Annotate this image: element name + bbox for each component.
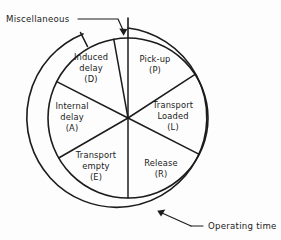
operating-time-leader-line [162,213,191,226]
pie-chart-svg: Miscellaneous Operating time Pick-up (P)… [0,0,281,240]
sector-label-internal-delay: Internal delay (A) [55,101,88,133]
sector-label-pick-up-line2: (P) [149,65,161,75]
operating-time-label: Operating time [208,221,277,231]
sector-label-internal-delay-line1: Internal [55,101,88,111]
sector-label-pick-up-line1: Pick-up [139,54,170,64]
miscellaneous-leader-line [78,19,123,30]
sector-label-transport-empty: Transport empty (E) [75,150,117,182]
operating-time-diagram: Miscellaneous Operating time Pick-up (P)… [0,0,281,240]
sector-label-transport-empty-line3: (E) [90,172,102,182]
spoke-loaded-release [128,118,199,154]
operating-time-leader-arrow-icon [157,210,165,217]
miscellaneous-label: Miscellaneous [6,14,70,24]
sector-label-release-line1: Release [144,158,177,168]
sector-label-transport-empty-line2: empty [82,161,109,171]
sector-label-internal-delay-line3: (A) [66,123,79,133]
sector-label-transport-loaded-line1: Transport [152,100,194,110]
sector-label-induced-delay: Induced delay (D) [74,52,108,84]
sector-label-induced-delay-line3: (D) [84,74,97,84]
sector-label-transport-empty-line1: Transport [75,150,117,160]
sector-label-internal-delay-line2: delay [60,112,83,122]
sector-label-release-line2: (R) [155,169,168,179]
sector-label-transport-loaded: Transport Loaded (L) [152,100,194,132]
spoke-induced-miscellaneous [114,39,128,118]
sector-label-pick-up: Pick-up (P) [139,54,170,75]
miscellaneous-leader-arrow-icon [119,29,127,36]
sector-label-induced-delay-line1: Induced [74,52,108,62]
sector-label-transport-loaded-line3: (L) [167,122,179,132]
sector-label-transport-loaded-line2: Loaded [157,111,188,121]
sector-label-induced-delay-line2: delay [79,63,102,73]
sector-label-release: Release (R) [144,158,177,179]
operating-time-arc-end-cap [81,33,88,47]
